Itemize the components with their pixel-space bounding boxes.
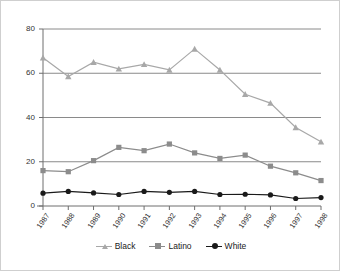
data-point-marker [141,148,146,153]
data-point-marker [141,189,146,194]
data-point-marker [40,55,46,61]
data-point-marker [167,190,172,195]
data-point-marker [243,153,248,158]
data-point-marker [318,195,323,200]
y-tick-label: 80 [13,25,35,33]
legend-item-latino[interactable]: Latino [149,241,191,251]
legend-marker-triangle-icon [96,242,112,250]
y-tick-label: 20 [13,158,35,166]
series-black [40,46,324,145]
legend-label: Latino [168,241,191,251]
series-line [43,144,321,181]
series-line [43,49,321,142]
data-point-marker [40,168,45,173]
data-point-marker [167,141,172,146]
data-point-marker [91,190,96,195]
data-point-marker [40,191,45,196]
data-point-marker [268,164,273,169]
legend-marker-circle-icon [206,242,222,250]
data-point-marker [91,158,96,163]
series-latino [40,141,323,183]
legend-label: Black [115,241,136,251]
y-tick-label: 60 [13,69,35,77]
data-point-marker [243,192,248,197]
legend-item-black[interactable]: Black [96,241,136,251]
data-point-marker [66,189,71,194]
data-point-marker [191,46,197,52]
data-point-marker [217,156,222,161]
y-tick-label: 0 [13,202,35,210]
legend-label: White [225,241,247,251]
chart-legend: BlackLatinoWhite [1,241,340,251]
data-point-marker [192,189,197,194]
data-point-marker [318,139,324,145]
y-tick-label: 40 [13,114,35,122]
data-point-marker [318,178,323,183]
data-point-marker [141,61,147,67]
data-point-marker [268,192,273,197]
chart-frame: 806040200 198719881989199019911992199319… [0,0,340,271]
legend-item-white[interactable]: White [206,241,247,251]
data-point-marker [293,170,298,175]
data-point-marker [66,169,71,174]
data-point-marker [116,145,121,150]
data-point-marker [116,192,121,197]
data-point-marker [217,192,222,197]
legend-marker-square-icon [149,242,165,250]
data-point-marker [293,196,298,201]
data-point-marker [90,59,96,65]
series-line [43,191,321,198]
series-white [40,189,323,201]
data-point-marker [192,150,197,155]
